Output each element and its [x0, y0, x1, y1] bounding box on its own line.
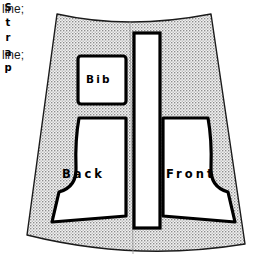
- pattern-piece-strap[interactable]: [134, 33, 160, 228]
- pattern-layout-diagram: line; line;: [0, 0, 255, 259]
- strap-outline: [134, 33, 160, 228]
- pattern-drawing: [0, 0, 255, 259]
- piece-label-back: Back: [62, 167, 105, 181]
- piece-label-front: Front: [166, 167, 215, 181]
- piece-label-bib: Bib: [86, 73, 112, 85]
